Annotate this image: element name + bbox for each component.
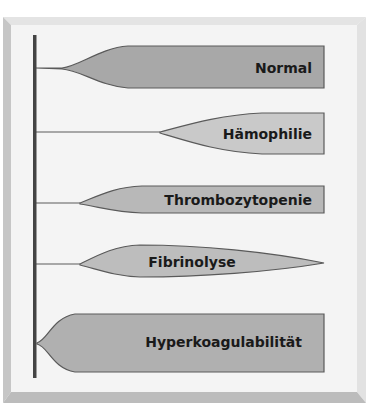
frame-left-bevel bbox=[3, 17, 11, 403]
fibrinolyse-label: Fibrinolyse bbox=[148, 254, 235, 270]
haemophilie-label: Hämophilie bbox=[223, 126, 312, 142]
frame-top-bevel bbox=[3, 17, 366, 25]
time-axis-bar bbox=[33, 35, 37, 378]
frame-bottom-bevel bbox=[3, 392, 366, 403]
coagulation-diagram: Normal Hämophilie Thrombozytopenie Fibri… bbox=[0, 0, 372, 413]
hyperkoagulabilitaet-label: Hyperkoagulabilität bbox=[145, 334, 302, 350]
thrombozytopenie-label: Thrombozytopenie bbox=[164, 192, 312, 208]
normal-label: Normal bbox=[255, 60, 312, 76]
row-hyperkoagulabilitaet: Hyperkoagulabilität bbox=[37, 314, 324, 372]
frame-right-bevel bbox=[357, 17, 366, 403]
